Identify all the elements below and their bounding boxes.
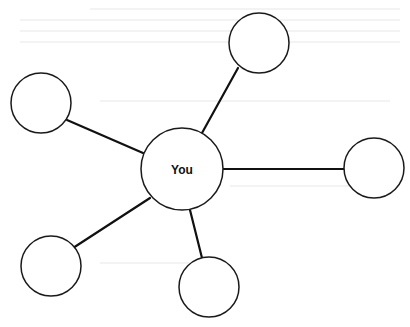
node-bottom bbox=[179, 257, 239, 317]
edge-center-to-bottom-left bbox=[73, 198, 150, 248]
node-left-top bbox=[11, 73, 71, 133]
diagram-canvas: You bbox=[0, 0, 410, 327]
node-top bbox=[229, 13, 289, 73]
node-bottom-left bbox=[21, 236, 81, 296]
edge-center-to-left-top bbox=[67, 120, 143, 153]
node-right bbox=[344, 138, 404, 198]
network-diagram bbox=[0, 0, 410, 327]
edge-center-to-top bbox=[202, 68, 238, 133]
edge-center-to-bottom bbox=[190, 210, 202, 258]
center-node-label: You bbox=[171, 163, 193, 177]
